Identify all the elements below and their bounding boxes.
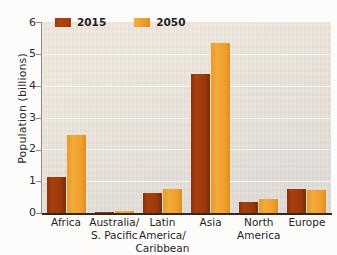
- bar[interactable]: [67, 135, 86, 213]
- bar[interactable]: [259, 199, 278, 213]
- x-axis-line: [42, 213, 332, 215]
- legend-label-2015: 2015: [77, 17, 106, 28]
- bar-group: [283, 22, 331, 213]
- y-tick-label-6: 6: [2, 17, 36, 28]
- bar[interactable]: [211, 43, 230, 213]
- chart-legend: 2015 2050: [55, 17, 185, 28]
- bar[interactable]: [47, 177, 66, 213]
- x-axis-labels: AfricaAustralia/S. PacificLatin America/…: [42, 216, 331, 254]
- y-tick-label-2: 2: [2, 143, 36, 154]
- bar[interactable]: [191, 74, 210, 213]
- legend-item-2050[interactable]: 2050: [134, 17, 185, 28]
- y-tick-label-1: 1: [2, 175, 36, 186]
- bar[interactable]: [115, 211, 134, 213]
- legend-item-2015[interactable]: 2015: [55, 17, 106, 28]
- bar-group: [235, 22, 283, 213]
- legend-label-2050: 2050: [156, 17, 185, 28]
- y-tick-label-4: 4: [2, 80, 36, 91]
- legend-swatch-2050-icon: [134, 18, 150, 27]
- bar-group: [90, 22, 138, 213]
- bar[interactable]: [239, 202, 258, 213]
- bar[interactable]: [287, 189, 306, 213]
- bars-layer: [42, 22, 331, 213]
- legend-swatch-2015-icon: [55, 18, 71, 27]
- y-tick-label-3: 3: [2, 112, 36, 123]
- x-axis-label: Europe: [272, 216, 337, 229]
- bar-group: [187, 22, 235, 213]
- bar-group: [42, 22, 90, 213]
- bar[interactable]: [163, 189, 182, 214]
- plot-area: [42, 22, 331, 213]
- bar[interactable]: [143, 193, 162, 213]
- y-tick-label-5: 5: [2, 48, 36, 59]
- population-bar-chart: Population (billions) 6 5 4 3 2 1 0 2015…: [0, 0, 337, 255]
- bar[interactable]: [95, 212, 114, 213]
- bar-group: [138, 22, 186, 213]
- bar[interactable]: [307, 190, 326, 213]
